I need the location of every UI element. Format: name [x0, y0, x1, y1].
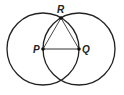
- diagram-canvas: P Q R: [0, 0, 124, 95]
- point-R: [59, 16, 63, 20]
- label-P: P: [33, 44, 40, 55]
- segment-PR: [43, 18, 61, 49]
- point-Q: [77, 47, 81, 51]
- point-P: [41, 47, 45, 51]
- segment-QR: [61, 18, 79, 49]
- label-Q: Q: [82, 44, 90, 55]
- label-R: R: [57, 4, 65, 15]
